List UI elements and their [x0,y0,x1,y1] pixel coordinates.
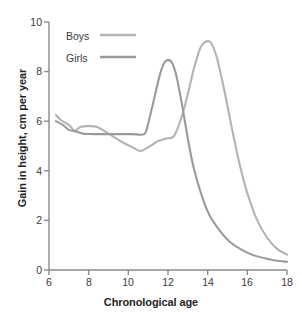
line-series-boys [56,41,287,254]
plot-area [0,0,302,318]
y-axis-ticks [44,22,49,270]
legend-swatches [100,35,136,57]
line-series-girls [56,60,287,262]
x-axis-ticks [49,270,287,275]
growth-velocity-chart: Gain in height, cm per year Chronologica… [0,0,302,318]
data-series [56,41,287,262]
